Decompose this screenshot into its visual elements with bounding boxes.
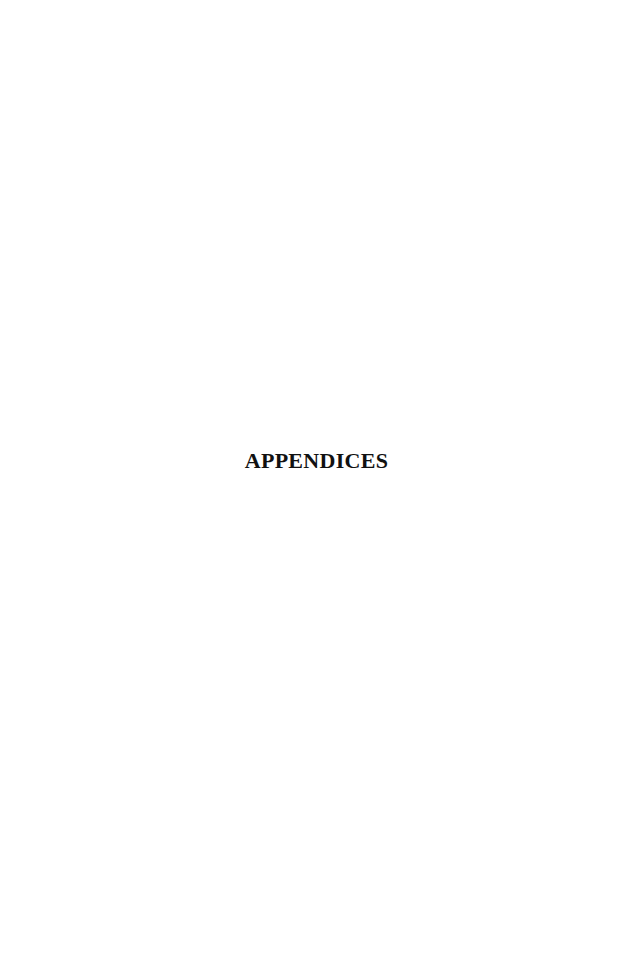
page-title: APPENDICES <box>0 446 633 476</box>
document-page: APPENDICES <box>0 0 633 963</box>
